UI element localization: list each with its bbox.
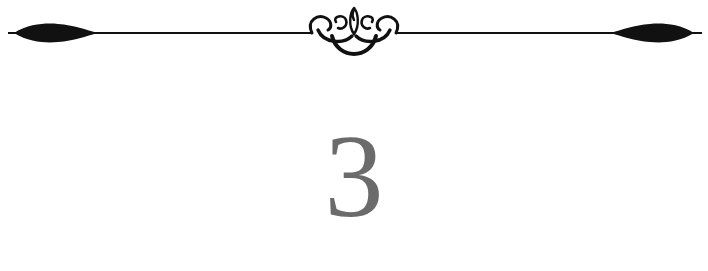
right-leaf-icon bbox=[610, 24, 694, 43]
chapter-number: 3 bbox=[0, 118, 708, 236]
center-scroll-icon bbox=[310, 8, 397, 54]
left-leaf-icon bbox=[14, 24, 98, 43]
decorative-divider-icon bbox=[0, 0, 708, 80]
